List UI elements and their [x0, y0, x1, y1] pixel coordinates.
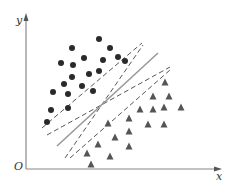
triangle-point: [88, 161, 95, 168]
circle-point: [81, 55, 87, 61]
triangle-point: [137, 106, 144, 113]
svm-hyperplane-diagram: O x y: [0, 0, 238, 195]
plot-area: O x y: [0, 0, 238, 195]
triangle-point: [105, 120, 112, 127]
circle-point: [61, 81, 67, 87]
circle-point: [100, 57, 106, 63]
origin-label: O: [14, 160, 23, 173]
circle-point: [122, 58, 128, 64]
triangle-point: [161, 104, 168, 111]
circle-point: [107, 45, 113, 51]
triangle-point: [95, 141, 102, 148]
circle-point: [86, 71, 92, 77]
circle-point: [69, 74, 75, 80]
triangle-point: [84, 150, 91, 157]
circle-class-points: [44, 36, 128, 125]
circle-point: [69, 45, 75, 51]
dashed-candidate-line: [42, 43, 142, 128]
triangle-point: [126, 128, 133, 135]
circle-point: [96, 36, 102, 42]
circle-point: [65, 91, 71, 97]
triangle-point: [145, 121, 152, 128]
circle-point: [79, 83, 85, 89]
triangle-point: [166, 93, 173, 100]
circle-point: [44, 119, 50, 125]
circle-point: [70, 62, 76, 68]
circle-point: [115, 54, 121, 60]
triangle-point: [107, 153, 114, 160]
triangle-point: [126, 143, 133, 150]
circle-point: [65, 105, 71, 111]
triangle-point: [161, 121, 168, 128]
triangle-point: [112, 134, 119, 141]
circle-point: [90, 88, 96, 94]
triangle-point: [150, 93, 157, 100]
x-axis-label: x: [216, 170, 223, 183]
triangle-point: [150, 106, 157, 113]
triangle-point: [126, 115, 133, 122]
circle-point: [50, 89, 56, 95]
triangle-point: [162, 79, 169, 86]
y-axis-arrow-icon: [24, 13, 29, 21]
triangle-class-points: [84, 79, 185, 168]
triangle-point: [178, 104, 185, 111]
circle-point: [96, 68, 102, 74]
circle-point: [48, 107, 54, 113]
circle-point: [58, 60, 64, 66]
y-axis-label: y: [15, 14, 23, 27]
